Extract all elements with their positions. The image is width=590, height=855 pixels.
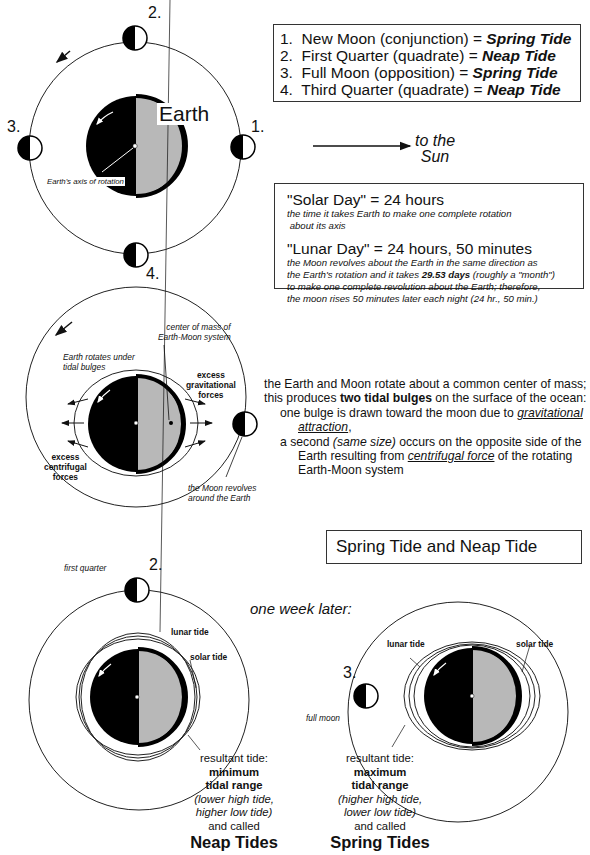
legend-item-2: 2. First Quarter (quadrate) = Neap Tide — [280, 47, 571, 64]
solar-day-title: "Solar Day" = 24 hours — [287, 191, 555, 208]
moon-icon-3 — [18, 136, 42, 160]
orbit-direction-arrow — [57, 51, 70, 62]
legend-item-4: 4. Third Quarter (quadrate) = Neap Tide — [280, 81, 571, 98]
lunar-day-desc: the Moon revolves about the Earth in the… — [287, 257, 555, 306]
section-title: Spring Tide and Neap Tide — [336, 537, 537, 557]
lunar-day-title: "Lunar Day" = 24 hours, 50 minutes — [287, 240, 555, 257]
earth-rotates-label: Earth rotates undertidal bulges — [63, 352, 135, 372]
moon-icon-1 — [231, 135, 255, 159]
spring-caption: resultant tide: maximum tidal range (hig… — [325, 752, 435, 852]
moon-icon-first-quarter — [125, 578, 149, 602]
moon-position-label-4: 4. — [146, 265, 159, 283]
center-of-mass-label: center of mass ofEarth-Moon system — [158, 322, 231, 342]
tidal-bulge-explanation: the Earth and Moon rotate about a common… — [264, 377, 586, 478]
legend-item-1: 1. New Moon (conjunction) = Spring Tide — [280, 30, 571, 47]
sun-direction-label: to the Sun — [415, 133, 455, 165]
neap-lunar-tide-label: lunar tide — [171, 627, 209, 637]
one-week-later-label: one week later: — [250, 600, 352, 617]
excess-gravitational-label: excessgravitationalforces — [186, 370, 236, 400]
earth-icon-2 — [88, 376, 184, 472]
moon-icon-full-moon — [354, 684, 378, 708]
moon-position-label-3: 3. — [7, 118, 20, 136]
earth-icon-3 — [90, 649, 186, 745]
excess-centrifugal-label: excesscentrifugalforces — [44, 452, 87, 482]
first-quarter-label: first quarter — [64, 563, 106, 573]
spring-solar-tide-label: solar tide — [516, 639, 553, 649]
full-moon-label: full moon — [306, 713, 340, 723]
neap-moon-num: 2. — [149, 556, 162, 574]
moon-icon-4 — [124, 243, 148, 267]
day-length-box: "Solar Day" = 24 hours the time it takes… — [274, 183, 584, 289]
moon-position-label-2: 2. — [148, 4, 161, 22]
moon-icon-new — [233, 412, 257, 436]
neap-caption: resultant tide: minimum tidal range (low… — [184, 752, 284, 852]
moon-position-label-1: 1. — [251, 118, 264, 136]
moon-icon-2 — [123, 26, 147, 50]
spring-lunar-tide-label: lunar tide — [387, 639, 425, 649]
neap-tides-title: Neap Tides — [184, 833, 284, 852]
legend-box: 1. New Moon (conjunction) = Spring Tide … — [273, 24, 581, 102]
spring-tides-title: Spring Tides — [325, 833, 435, 852]
section-title-box: Spring Tide and Neap Tide — [326, 530, 582, 564]
moon-revolves-label: the Moon revolvesaround the Earth — [188, 483, 256, 503]
legend-item-3: 3. Full Moon (opposition) = Spring Tide — [280, 64, 571, 81]
spring-moon-num: 3. — [343, 664, 356, 682]
axis-label: Earth's axis of rotation — [46, 177, 125, 186]
orbit-direction-arrow-2 — [56, 322, 72, 335]
neap-solar-tide-label: solar tide — [190, 652, 227, 662]
earth-icon-4 — [424, 648, 520, 744]
moon-phase-diagram — [18, 26, 255, 267]
earth-label: Earth — [157, 103, 211, 125]
solar-day-desc: the time it takes Earth to make one comp… — [287, 208, 555, 233]
